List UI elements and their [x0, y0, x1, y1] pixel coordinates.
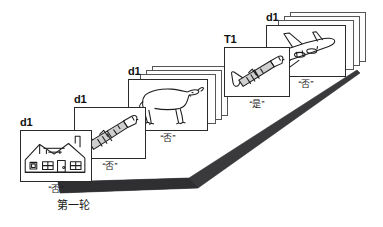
card-tag-trumpet: d1: [74, 94, 86, 105]
card-answer-house: “否”: [20, 185, 92, 194]
card-tag-goat: d1: [128, 66, 140, 77]
picture-card-target-trumpet[interactable]: [224, 47, 290, 97]
figure-canvas: d1 “否” T1 “是”: [0, 0, 383, 227]
card-tag-target-trumpet: T1: [224, 34, 236, 45]
picture-card-house[interactable]: [20, 130, 92, 182]
trumpet-icon: [225, 48, 289, 96]
figure-caption: 第一轮: [57, 200, 90, 211]
card-tag-house: d1: [20, 117, 32, 128]
house-icon: [21, 131, 91, 181]
card-tag-airplane: d1: [266, 12, 278, 23]
